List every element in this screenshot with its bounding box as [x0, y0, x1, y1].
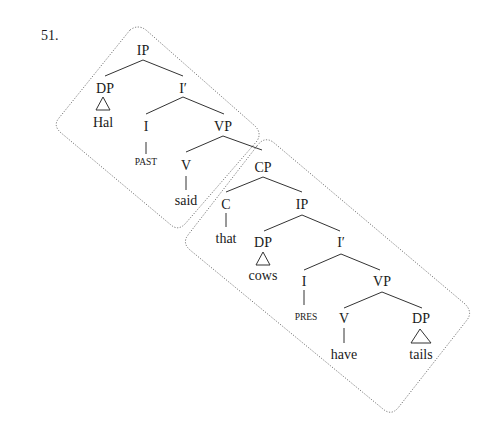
node-I: I — [144, 119, 149, 134]
example-number: 51. — [41, 28, 59, 43]
node-V-embedded: V — [339, 311, 349, 326]
node-DP-embedded: DP — [254, 235, 272, 250]
embedded-clause-box — [185, 140, 469, 413]
leaf-PAST: PAST — [135, 157, 158, 167]
leaf-cows: cows — [249, 268, 278, 283]
matrix-edges — [96, 60, 262, 190]
leaf-PRES: PRES — [295, 312, 318, 322]
leaf-have: have — [331, 347, 357, 362]
node-DP: DP — [96, 81, 114, 96]
leaf-that: that — [216, 231, 237, 246]
embedded-edges — [226, 177, 431, 343]
node-V: V — [181, 158, 191, 173]
node-IP-embedded: IP — [296, 197, 309, 212]
node-I-bar-embedded: I′ — [337, 235, 345, 250]
node-VP-embedded: VP — [373, 274, 391, 289]
leaf-Hal: Hal — [93, 115, 113, 130]
node-C: C — [221, 197, 230, 212]
leaf-said: said — [175, 193, 198, 208]
node-DP-object: DP — [412, 311, 430, 326]
leaf-tails: tails — [409, 347, 432, 362]
node-I-bar: I′ — [179, 81, 187, 96]
node-IP: IP — [137, 43, 150, 58]
syntax-tree-diagram: 51. IP DP Hal I′ I PAST VP V said CP C — [0, 0, 493, 434]
node-I-embedded: I — [302, 274, 307, 289]
node-VP: VP — [214, 119, 232, 134]
node-CP: CP — [254, 160, 271, 175]
